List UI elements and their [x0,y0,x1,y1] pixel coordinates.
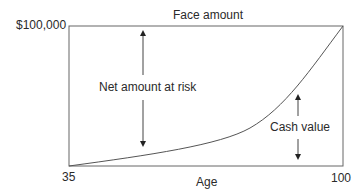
y-max-label: $100,000 [16,18,66,32]
net-amount-at-risk-label: Net amount at risk [99,80,196,94]
plot-frame [69,26,343,166]
x-max-label: 100 [331,171,351,185]
face-amount-label: Face amount [173,8,243,22]
x-min-label: 35 [62,170,75,184]
x-axis-title: Age [196,175,217,189]
cash-value-curve [69,26,343,166]
cash-value-label: Cash value [270,120,330,134]
